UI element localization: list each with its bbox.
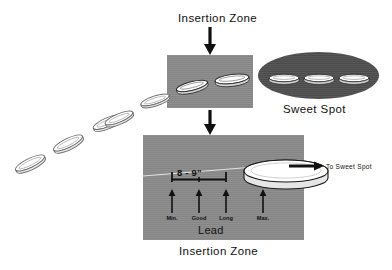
label-lead: Lead xyxy=(198,224,224,236)
lead-indicator-arrows xyxy=(169,189,267,213)
label-lead-max: Max. xyxy=(257,215,269,221)
flight-path-discs xyxy=(14,92,172,177)
arrow-panel-to-panel xyxy=(204,110,216,135)
lead-arrow-min xyxy=(169,189,176,213)
lead-arrow-good xyxy=(196,189,203,213)
label-measurement: 8 - 9" xyxy=(177,167,202,178)
diagram-vector-layer xyxy=(0,0,392,270)
disc-insertion-zone-diagram: Insertion Zone Sweet Spot To Sweet Spot … xyxy=(0,0,392,270)
label-insertion-zone-top: Insertion Zone xyxy=(178,12,257,24)
label-lead-long: Long xyxy=(219,215,233,221)
arrow-top-to-panel xyxy=(204,27,216,55)
label-to-sweet-spot: To Sweet Spot xyxy=(326,163,372,170)
lead-arrow-max xyxy=(260,189,267,213)
label-lead-good: Good xyxy=(192,215,207,221)
insertion-zone-discs-top xyxy=(175,72,249,96)
label-lead-min: Min. xyxy=(166,215,177,221)
label-sweet-spot: Sweet Spot xyxy=(283,103,346,115)
label-insertion-zone-bottom: Insertion Zone xyxy=(179,245,258,257)
lead-arrow-long xyxy=(223,189,230,213)
sweet-spot-discs xyxy=(269,74,369,84)
